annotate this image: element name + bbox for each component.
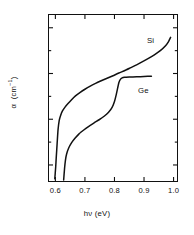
x-axis-tick-label: 0.8: [101, 186, 127, 195]
x-axis-tick-label: 0.7: [72, 186, 98, 195]
y-axis-title: α (cm−1): [9, 58, 18, 128]
series-label-si: Si: [147, 36, 154, 45]
y-axis-tick-labels: 1.0102104106: [0, 0, 45, 235]
absorption-coefficient-chart: 1.0102104106 α (cm−1) 0.60.70.80.91.0 hν…: [0, 0, 194, 235]
x-axis-tick-label: 1.0: [161, 186, 187, 195]
plot-frame: [48, 14, 178, 182]
x-axis-tick-label: 0.9: [131, 186, 157, 195]
series-label-ge: Ge: [138, 86, 149, 95]
x-axis-tick-label: 0.6: [42, 186, 68, 195]
x-axis-title-text: hν (eV): [84, 209, 111, 218]
x-axis-title: hν (eV): [0, 209, 194, 218]
y-axis-title-text: α (cm−1): [9, 77, 18, 109]
